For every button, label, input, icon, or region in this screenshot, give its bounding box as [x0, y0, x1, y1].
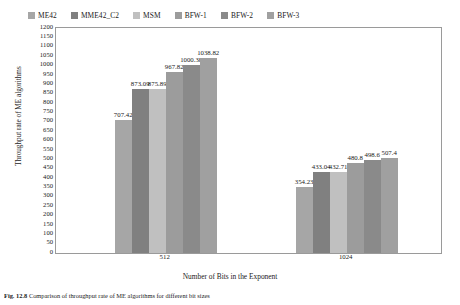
bar-value-label: 707.42	[114, 111, 133, 119]
bar-bfw-2-1024[interactable]: 498.6	[364, 160, 381, 253]
bar-me42-512[interactable]: 707.42	[115, 120, 132, 253]
y-axis-tick-label: 450	[43, 164, 53, 171]
legend-swatch-icon	[267, 12, 274, 19]
y-axis-tick-label: 400	[43, 174, 53, 181]
y-axis-title: Throughput rate of ME algorithms	[15, 31, 23, 201]
y-axis-tick-label: 500	[43, 155, 53, 162]
bar-mme42-c2-512[interactable]: 873.09	[132, 89, 149, 253]
bar-slot: 498.6	[364, 28, 381, 253]
legend-swatch-icon	[221, 12, 228, 19]
bar-slot: 875.89	[149, 28, 166, 253]
y-axis-tick-label: 0	[50, 249, 53, 256]
legend-item-msm[interactable]: MSM	[133, 11, 161, 20]
bar-value-label: 875.89	[148, 80, 167, 88]
y-axis-tick-label: 1100	[40, 42, 53, 49]
chart-legend: ME42MME42_C2MSMBFW-1BFW-2BFW-3	[28, 9, 432, 22]
y-axis-tick-label: 1200	[40, 24, 53, 31]
bar-me42-1024[interactable]: 354.23	[296, 187, 313, 253]
bar-slot: 480.8	[347, 28, 364, 253]
figure-caption-text: Comparison of throughput rate of ME algo…	[29, 292, 210, 299]
bar-value-label: 873.09	[131, 80, 150, 88]
legend-swatch-icon	[28, 12, 35, 19]
y-axis-tick-label: 850	[43, 89, 53, 96]
bar-slot: 432.71	[330, 28, 347, 253]
x-axis-title: Number of Bits in the Exponent	[0, 272, 460, 281]
y-axis-tick-label: 600	[43, 136, 53, 143]
legend-label: MME42_C2	[81, 11, 119, 20]
y-axis-tick-label: 150	[43, 221, 53, 228]
bar-value-label: 480.8	[348, 154, 363, 162]
y-axis-ticks: 1200115011001050100095090085080075070065…	[22, 22, 53, 257]
y-axis-tick-label: 900	[43, 80, 53, 87]
y-axis-tick-label: 1000	[40, 61, 53, 68]
y-axis-tick-label: 1050	[40, 52, 53, 59]
y-axis-tick-label: 650	[43, 127, 53, 134]
bar-msm-512[interactable]: 875.89	[149, 89, 166, 253]
bar-slot: 507.4	[381, 28, 398, 253]
bar-groups: 707.42873.09875.89967.821000.381038.8235…	[56, 28, 441, 253]
legend-item-bfw-3[interactable]: BFW-3	[267, 11, 299, 20]
bar-bfw-2-512[interactable]: 1000.38	[183, 65, 200, 253]
legend-swatch-icon	[71, 12, 78, 19]
legend-item-me42[interactable]: ME42	[28, 11, 57, 20]
y-axis-tick-label: 950	[43, 71, 53, 78]
x-axis-tick-label-1024: 1024	[339, 253, 353, 260]
legend-item-bfw-1[interactable]: BFW-1	[175, 11, 207, 20]
bar-msm-1024[interactable]: 432.71	[330, 172, 347, 253]
legend-swatch-icon	[133, 12, 140, 19]
y-axis-tick-label: 100	[43, 230, 53, 237]
bar-slot: 873.09	[132, 28, 149, 253]
bar-value-label: 498.6	[365, 151, 380, 159]
bar-slot: 707.42	[115, 28, 132, 253]
bar-group-512: 707.42873.09875.89967.821000.381038.82	[115, 28, 217, 253]
bar-value-label: 354.23	[295, 178, 314, 186]
legend-item-bfw-2[interactable]: BFW-2	[221, 11, 253, 20]
bar-mme42-c2-1024[interactable]: 433.04	[313, 172, 330, 253]
legend-label: MSM	[143, 11, 161, 20]
figure-container: ME42MME42_C2MSMBFW-1BFW-2BFW-3 120011501…	[0, 0, 460, 305]
bar-bfw-1-512[interactable]: 967.82	[166, 72, 183, 253]
y-axis-tick-label: 200	[43, 211, 53, 218]
legend-label: BFW-1	[185, 11, 207, 20]
x-axis-tick-label-512: 512	[160, 253, 170, 260]
plot-area: 707.42873.09875.89967.821000.381038.8235…	[55, 27, 442, 254]
bar-slot: 354.23	[296, 28, 313, 253]
y-axis-tick-label: 550	[43, 146, 53, 153]
bar-slot: 433.04	[313, 28, 330, 253]
y-axis-tick-label: 1150	[40, 33, 53, 40]
bar-slot: 1038.82	[200, 28, 217, 253]
y-axis-tick-label: 700	[43, 117, 53, 124]
figure-caption: Fig. 12.8 Comparison of throughput rate …	[4, 292, 456, 300]
y-axis-tick-label: 800	[43, 99, 53, 106]
y-axis-tick-label: 50	[46, 239, 53, 246]
legend-label: ME42	[38, 11, 57, 20]
y-axis-tick-label: 750	[43, 108, 53, 115]
legend-label: BFW-2	[231, 11, 253, 20]
legend-label: BFW-3	[277, 11, 299, 20]
bar-bfw-3-1024[interactable]: 507.4	[381, 158, 398, 253]
y-axis-tick-label: 250	[43, 202, 53, 209]
bar-group-1024: 354.23433.04432.71480.8498.6507.4	[296, 28, 398, 253]
y-axis-tick-label: 300	[43, 192, 53, 199]
bar-value-label: 1038.82	[197, 49, 219, 57]
legend-item-mme42-c2[interactable]: MME42_C2	[71, 11, 119, 20]
bar-value-label: 507.4	[382, 149, 397, 157]
bar-slot: 1000.38	[183, 28, 200, 253]
y-axis-tick-label: 350	[43, 183, 53, 190]
bar-value-label: 432.71	[329, 163, 348, 171]
legend-swatch-icon	[175, 12, 182, 19]
figure-number: Fig. 12.8	[4, 292, 27, 299]
bar-value-label: 433.04	[312, 163, 331, 171]
bar-bfw-1-1024[interactable]: 480.8	[347, 163, 364, 253]
bar-bfw-3-512[interactable]: 1038.82	[200, 58, 217, 253]
